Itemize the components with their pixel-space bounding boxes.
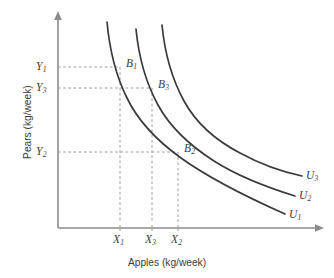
curve-label-u2: U2 bbox=[299, 190, 311, 202]
curve-label-u3: U3 bbox=[306, 170, 318, 182]
x-axis-label-x2: X2 bbox=[171, 234, 182, 246]
chart-canvas bbox=[0, 0, 334, 278]
curve-u2 bbox=[136, 29, 295, 196]
y-axis-label-y1: Y1 bbox=[36, 61, 46, 73]
y-axis-arrowhead bbox=[54, 11, 62, 20]
x-axis-label-x3: X3 bbox=[145, 234, 156, 246]
x-axis-title: Apples (kg/week) bbox=[0, 258, 334, 268]
indifference-curve-figure: Y1 Y3 Y2 X1 X3 X2 B1 B3 B2 U3 U2 U1 Appl… bbox=[0, 0, 334, 278]
indifference-curves-group bbox=[107, 22, 302, 214]
y-axis-title: Pears (kg/week) bbox=[23, 42, 33, 202]
axes-group bbox=[54, 11, 324, 232]
y-axis-label-y3: Y3 bbox=[36, 82, 46, 94]
bundle-label-b1: B1 bbox=[126, 58, 137, 70]
bundle-label-b3: B3 bbox=[158, 79, 169, 91]
x-axis-label-x1: X1 bbox=[113, 234, 124, 246]
curve-u3 bbox=[162, 25, 302, 176]
bundle-label-b2: B2 bbox=[184, 143, 195, 155]
y-axis-label-y2: Y2 bbox=[36, 146, 46, 158]
x-axis-arrowhead bbox=[315, 224, 324, 232]
curve-label-u1: U1 bbox=[289, 209, 301, 221]
